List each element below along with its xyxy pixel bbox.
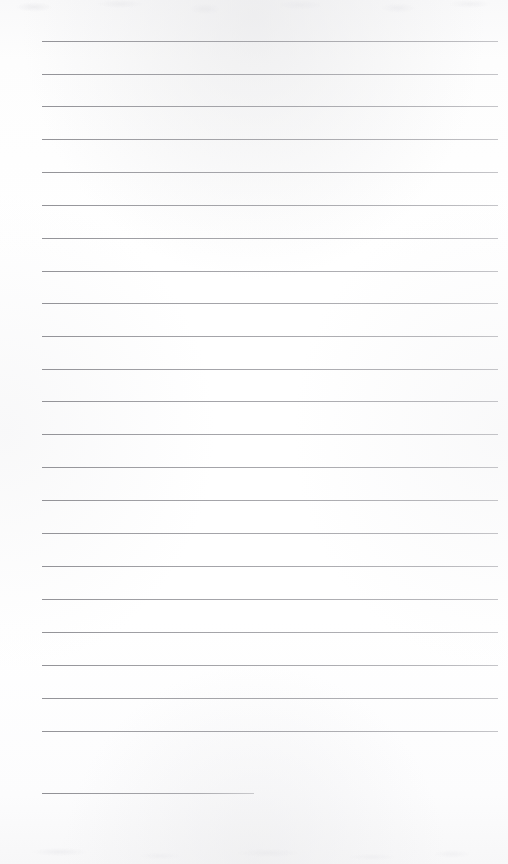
ruled-lines bbox=[0, 0, 508, 864]
rule-line bbox=[42, 500, 498, 501]
signature-rule-line bbox=[42, 793, 254, 794]
rule-line bbox=[42, 172, 498, 173]
rule-line bbox=[42, 467, 498, 468]
rule-line bbox=[42, 731, 498, 732]
rule-line bbox=[42, 303, 498, 304]
rule-line bbox=[42, 74, 498, 75]
rule-line bbox=[42, 533, 498, 534]
rule-line bbox=[42, 434, 498, 435]
rule-line bbox=[42, 698, 498, 699]
rule-line bbox=[42, 369, 498, 370]
rule-line bbox=[42, 665, 498, 666]
rule-line bbox=[42, 205, 498, 206]
rule-line bbox=[42, 271, 498, 272]
rule-line bbox=[42, 106, 498, 107]
scanned-page bbox=[0, 0, 508, 864]
rule-line bbox=[42, 41, 498, 42]
rule-line bbox=[42, 139, 498, 140]
rule-line bbox=[42, 238, 498, 239]
rule-line bbox=[42, 336, 498, 337]
rule-line bbox=[42, 566, 498, 567]
rule-line bbox=[42, 599, 498, 600]
rule-line bbox=[42, 632, 498, 633]
rule-line bbox=[42, 401, 498, 402]
